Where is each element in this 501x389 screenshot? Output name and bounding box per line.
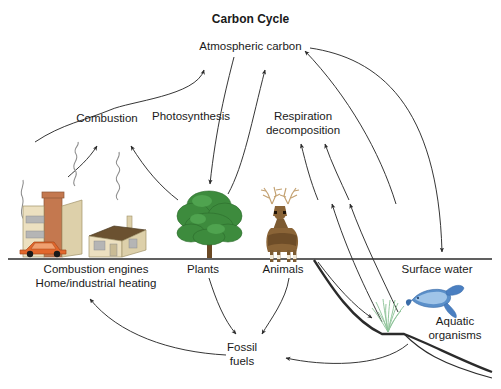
- arrow-animals-to-respiration: [301, 144, 318, 200]
- label-surface-water: Surface water: [386, 263, 488, 277]
- label-aquatic-organisms: Aquatic organisms: [412, 315, 498, 342]
- arrow-engines-to-combustion-a: [68, 146, 97, 177]
- label-respiration-decomposition: Respiration decomposition: [248, 110, 358, 137]
- label-fossil-fuels: Fossil fuels: [207, 341, 277, 368]
- page-title: Carbon Cycle: [0, 13, 501, 27]
- arrow-surface-water-to-aquatic: [318, 262, 372, 318]
- fish-illustration: [406, 285, 464, 318]
- label-plants: Plants: [168, 263, 238, 277]
- label-atmospheric-carbon: Atmospheric carbon: [0, 40, 501, 54]
- arrow-combustion-to-atmosphere: [35, 70, 204, 142]
- label-photosynthesis: Photosynthesis: [121, 110, 261, 124]
- arrow-fossil-fuels-to-engines: [90, 299, 226, 355]
- tree-illustration: [177, 191, 242, 258]
- arrow-plants-to-fossil-fuels: [209, 278, 236, 334]
- carbon-cycle-diagram: Carbon Cycle Atmospheric carbon Combusti…: [0, 0, 501, 389]
- label-combustion-engines: Combustion engines Home/industrial heati…: [2, 263, 190, 290]
- arrow-animals-to-fossil-fuels: [262, 278, 289, 334]
- label-animals: Animals: [248, 263, 318, 277]
- arrow-atmosphere-to-surface-water: [310, 48, 442, 252]
- deer-illustration: [261, 187, 299, 262]
- arrow-aquatic-to-fossil-fuels: [286, 344, 408, 363]
- arrow-aquatic-to-respiration-long-b: [350, 204, 398, 312]
- seaweed-illustration: [372, 299, 404, 332]
- arrow-engines-to-combustion-b: [131, 146, 178, 200]
- arrow-aquatic-to-respiration: [325, 144, 349, 200]
- house-illustration: [89, 216, 146, 257]
